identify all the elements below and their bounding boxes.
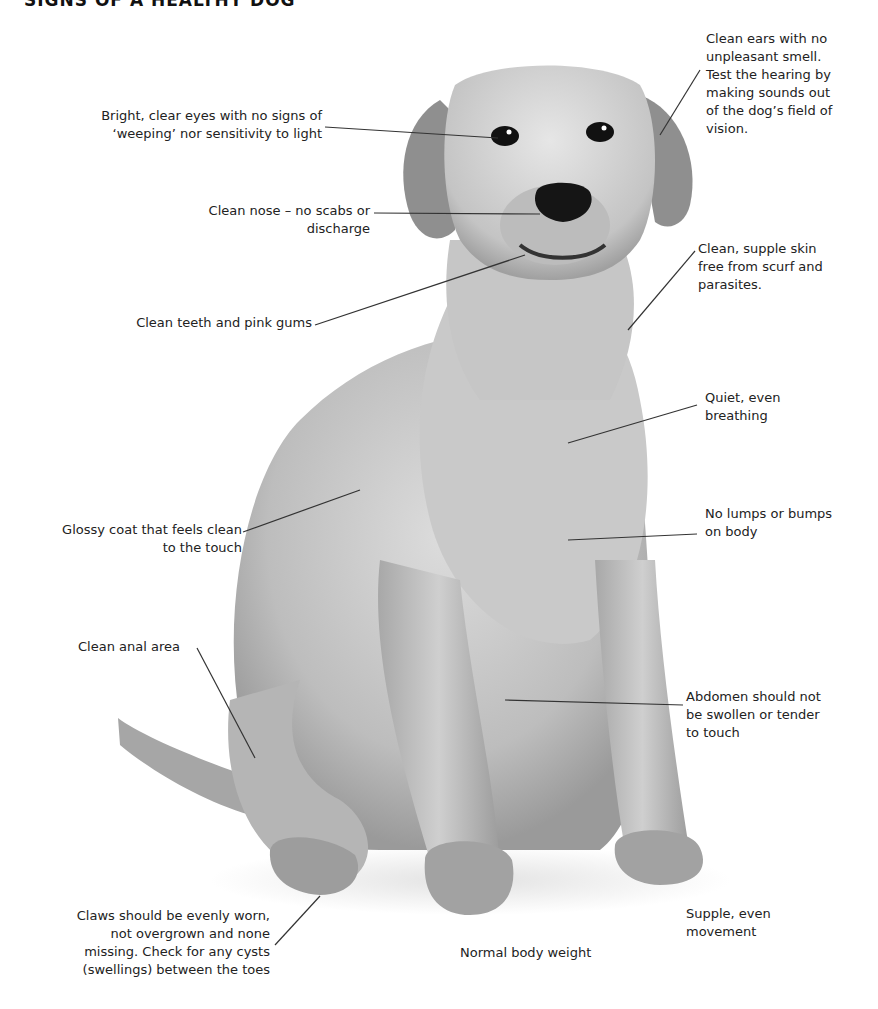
label-eyes: Bright, clear eyes with no signs of ‘wee…: [58, 107, 322, 143]
label-coat: Glossy coat that feels clean to the touc…: [16, 521, 242, 557]
label-ears: Clean ears with no unpleasant smell. Tes…: [706, 30, 878, 138]
eye-right: [586, 122, 614, 142]
label-lumps: No lumps or bumps on body: [705, 505, 875, 541]
label-weight: Normal body weight: [460, 944, 640, 962]
eye-left: [491, 126, 519, 146]
label-movement: Supple, even movement: [686, 905, 826, 941]
label-breathing: Quiet, even breathing: [705, 389, 865, 425]
label-skin: Clean, supple skin free from scurf and p…: [698, 240, 868, 294]
label-nose: Clean nose – no scabs or discharge: [160, 202, 370, 238]
label-anal: Clean anal area: [78, 638, 218, 656]
label-abdomen: Abdomen should not be swollen or tender …: [686, 688, 866, 742]
label-claws: Claws should be evenly worn, not overgro…: [20, 907, 270, 979]
leader-ears: [660, 70, 700, 135]
label-teeth: Clean teeth and pink gums: [100, 314, 312, 332]
leader-skin: [628, 251, 695, 330]
